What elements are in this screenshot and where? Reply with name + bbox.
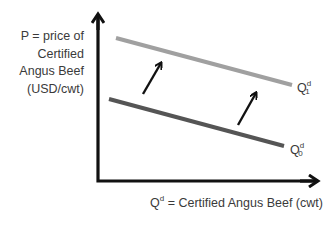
- x-axis-label-base: Q: [150, 196, 160, 210]
- x-axis-label-symbol: Qd: [150, 196, 164, 210]
- y-axis-label-line: Certified: [0, 46, 84, 64]
- x-axis-label-text: = Certified Angus Beef (cwt): [164, 196, 323, 210]
- curve-label-q0: Qd0: [290, 141, 303, 158]
- y-axis-label-line: Angus Beef: [0, 63, 84, 81]
- curve-label-sub: 1: [305, 87, 309, 96]
- curve-label-q1: Qd1: [297, 79, 310, 96]
- y-axis-label-line: P = price of: [0, 28, 84, 46]
- y-axis-label: P = price of Certified Angus Beef (USD/c…: [0, 28, 84, 98]
- demand-curve-q1: [116, 38, 292, 85]
- shift-arrow-icon: [238, 93, 256, 125]
- x-axis-label: Qd = Certified Angus Beef (cwt): [150, 194, 323, 210]
- demand-curve-q0: [109, 99, 284, 146]
- curve-label-sub: 0: [298, 149, 302, 158]
- y-axis-label-line: (USD/cwt): [0, 81, 84, 99]
- shift-arrow-icon: [143, 63, 161, 94]
